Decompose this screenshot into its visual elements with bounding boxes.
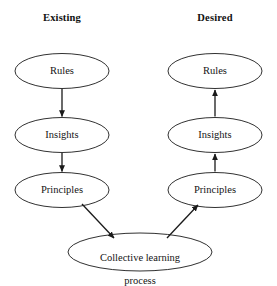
- node-existing-insights: [15, 118, 109, 153]
- node-collective-learning-process: [68, 233, 212, 271]
- edge-existing-principles-to-collective: [82, 204, 114, 238]
- node-desired-rules: [168, 54, 262, 89]
- node-existing-rules: [15, 54, 109, 89]
- node-desired-insights: [168, 118, 262, 153]
- node-desired-principles: [168, 173, 262, 208]
- edge-collective-to-desired-principles: [167, 205, 198, 238]
- node-existing-principles: [15, 173, 109, 208]
